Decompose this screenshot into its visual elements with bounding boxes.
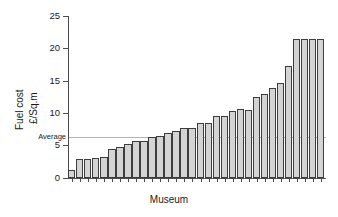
bar: [116, 147, 123, 178]
x-axis-line: [68, 178, 326, 179]
x-tick-mark: [241, 178, 242, 182]
bar: [237, 109, 244, 177]
x-tick-mark: [297, 178, 298, 182]
x-tick-mark: [72, 178, 73, 182]
bar: [76, 159, 83, 177]
bar: [188, 128, 195, 177]
x-tick-mark: [96, 178, 97, 182]
bar: [124, 144, 131, 178]
bar: [205, 123, 212, 178]
y-axis-title-line-1: Fuel cost: [14, 89, 25, 130]
x-tick-mark: [289, 178, 290, 182]
bar: [253, 97, 260, 178]
x-tick-mark: [233, 178, 234, 182]
x-tick-mark: [168, 178, 169, 182]
bar: [213, 116, 220, 177]
y-tick-label: 25: [49, 11, 60, 21]
bar: [293, 39, 300, 178]
x-tick-mark: [144, 178, 145, 182]
bar: [180, 128, 187, 177]
x-tick-mark: [152, 178, 153, 182]
bar: [148, 137, 155, 177]
x-tick-mark: [112, 178, 113, 182]
x-tick-mark: [184, 178, 185, 182]
x-tick-mark: [160, 178, 161, 182]
x-tick-mark: [225, 178, 226, 182]
bars-container: [68, 16, 326, 178]
y-tick-label: 0: [55, 173, 60, 183]
x-tick-mark: [217, 178, 218, 182]
bar: [197, 123, 204, 178]
bar: [108, 149, 115, 177]
bar: [221, 116, 228, 177]
bar: [156, 136, 163, 178]
x-tick-mark: [201, 178, 202, 182]
x-tick-mark: [281, 178, 282, 182]
y-tick-mark: [63, 178, 68, 179]
x-tick-mark: [313, 178, 314, 182]
bar: [277, 83, 284, 178]
x-tick-mark: [257, 178, 258, 182]
bar: [245, 110, 252, 178]
y-tick-label: 10: [49, 108, 60, 118]
x-tick-mark: [80, 178, 81, 182]
x-tick-mark: [305, 178, 306, 182]
fuel-cost-bar-chart: Fuel cost £/Sq.m 0510152025 Average Muse…: [0, 0, 338, 217]
x-tick-mark: [120, 178, 121, 182]
bar: [92, 158, 99, 177]
x-tick-mark: [249, 178, 250, 182]
x-tick-mark: [104, 178, 105, 182]
bar: [301, 39, 308, 178]
bar: [269, 88, 276, 178]
y-tick-label: 15: [49, 76, 60, 86]
x-tick-mark: [321, 178, 322, 182]
bar: [84, 159, 91, 177]
y-tick-label: 5: [55, 140, 60, 150]
bar: [164, 133, 171, 178]
x-tick-mark: [209, 178, 210, 182]
x-axis-title: Museum: [0, 194, 338, 205]
x-tick-mark: [176, 178, 177, 182]
bar: [309, 39, 316, 178]
bar: [132, 141, 139, 177]
bar: [172, 131, 179, 178]
x-tick-mark: [265, 178, 266, 182]
x-tick-mark: [88, 178, 89, 182]
bar: [261, 94, 268, 177]
bar: [285, 66, 292, 177]
x-tick-mark: [136, 178, 137, 182]
bar: [68, 170, 75, 178]
average-label: Average: [38, 133, 66, 141]
bar: [317, 39, 324, 178]
bar: [140, 141, 147, 178]
y-tick-label: 20: [49, 43, 60, 53]
x-tick-mark: [192, 178, 193, 182]
y-axis-title-line-2: £/Sq.m: [28, 92, 39, 124]
bar: [229, 111, 236, 178]
bar: [100, 157, 107, 177]
x-tick-mark: [273, 178, 274, 182]
x-tick-mark: [128, 178, 129, 182]
